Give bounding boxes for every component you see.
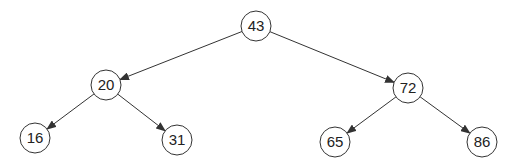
edge-72-to-86	[420, 97, 470, 133]
tree-node-86: 86	[467, 127, 497, 157]
node-label: 65	[327, 133, 344, 150]
tree-node-43: 43	[241, 11, 271, 41]
tree-diagram: 43207216316586	[0, 0, 514, 166]
node-label: 86	[474, 133, 491, 150]
edge-72-to-65	[347, 97, 396, 133]
node-label: 31	[169, 131, 186, 148]
nodes: 43207216316586	[20, 11, 497, 157]
node-label: 43	[248, 17, 265, 34]
edge-20-to-31	[118, 94, 165, 131]
edge-43-to-20	[120, 31, 242, 79]
tree-node-20: 20	[91, 70, 121, 100]
node-label: 20	[98, 76, 115, 93]
tree-node-65: 65	[320, 127, 350, 157]
tree-node-72: 72	[393, 73, 423, 103]
tree-node-31: 31	[162, 125, 192, 155]
edge-20-to-16	[47, 94, 94, 129]
node-label: 16	[27, 129, 44, 146]
node-label: 72	[400, 79, 417, 96]
tree-node-16: 16	[20, 123, 50, 153]
edge-43-to-72	[270, 32, 394, 83]
